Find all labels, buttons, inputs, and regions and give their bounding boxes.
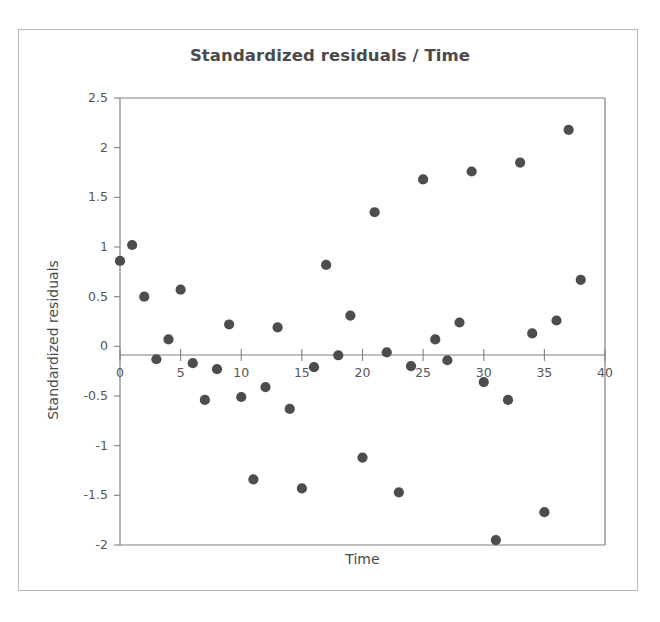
data-point — [467, 166, 477, 176]
data-point — [394, 487, 404, 497]
data-point — [442, 355, 452, 365]
x-tick-label: 25 — [401, 365, 445, 380]
y-tick-label: -1 — [54, 438, 108, 453]
data-point-layer — [115, 125, 586, 545]
data-point — [297, 483, 307, 493]
data-point — [527, 328, 537, 338]
data-point — [127, 240, 137, 250]
data-point — [151, 354, 161, 364]
data-point — [454, 317, 464, 327]
data-point — [370, 207, 380, 217]
y-axis-title: Standardized residuals — [45, 240, 61, 440]
data-point — [576, 275, 586, 285]
data-point — [139, 292, 149, 302]
y-tick-label: -2 — [54, 537, 108, 552]
x-tick-label: 10 — [219, 365, 263, 380]
data-point — [260, 382, 270, 392]
figure-root: Standardized residuals / Time -2-1.5-1-0… — [0, 0, 660, 622]
y-axis-ticks — [114, 98, 120, 545]
data-point — [224, 319, 234, 329]
data-point — [430, 334, 440, 344]
data-point — [285, 404, 295, 414]
data-point — [382, 347, 392, 357]
data-point — [418, 174, 428, 184]
data-point — [357, 452, 367, 462]
x-tick-label: 15 — [280, 365, 324, 380]
y-tick-label: 0 — [54, 338, 108, 353]
x-tick-label: 0 — [98, 365, 142, 380]
x-tick-label: 30 — [462, 365, 506, 380]
data-point — [491, 535, 501, 545]
x-tick-label: 20 — [341, 365, 385, 380]
x-axis-title: Time — [120, 551, 605, 567]
data-point — [515, 157, 525, 167]
y-tick-label: 0.5 — [54, 289, 108, 304]
data-point — [236, 392, 246, 402]
data-point — [115, 256, 125, 266]
data-point — [333, 350, 343, 360]
axes-frame — [120, 98, 605, 545]
x-tick-label: 5 — [159, 365, 203, 380]
y-tick-label: 1 — [54, 239, 108, 254]
x-tick-label: 35 — [522, 365, 566, 380]
x-tick-label: 40 — [583, 365, 627, 380]
data-point — [200, 395, 210, 405]
data-point — [345, 310, 355, 320]
data-point — [248, 474, 258, 484]
data-point — [503, 395, 513, 405]
y-tick-label: 2 — [54, 140, 108, 155]
data-point — [273, 322, 283, 332]
data-point — [551, 315, 561, 325]
y-tick-label: -1.5 — [54, 487, 108, 502]
y-tick-label: -0.5 — [54, 388, 108, 403]
data-point — [176, 285, 186, 295]
data-point — [321, 260, 331, 270]
data-point — [539, 507, 549, 517]
data-point — [163, 334, 173, 344]
data-point — [564, 125, 574, 135]
y-tick-label: 2.5 — [54, 90, 108, 105]
y-tick-label: 1.5 — [54, 189, 108, 204]
